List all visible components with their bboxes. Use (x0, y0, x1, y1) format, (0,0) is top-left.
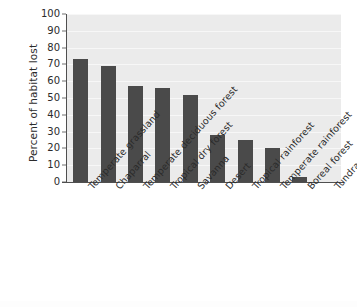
x-tick-label: Tropical dry forest (168, 184, 176, 191)
x-axis-tick-labels: Temperate grasslandChaparralTemperate de… (67, 184, 341, 304)
y-tick-label: 60 (36, 76, 60, 86)
y-tick-label: 90 (36, 26, 60, 36)
y-tick-label: 50 (36, 93, 60, 103)
y-tick-label: 20 (36, 143, 60, 153)
y-tick-label: 0 (36, 177, 60, 187)
x-tick-label: Temperate deciduous forest (141, 184, 149, 191)
page-edge (0, 301, 357, 307)
y-tick-label: 10 (36, 160, 60, 170)
y-tick-label: 40 (36, 110, 60, 120)
bar (73, 59, 88, 182)
x-tick-label: Tundra (332, 184, 340, 191)
bar-chart-figure: Percent of habitat lost 1009080706050403… (0, 0, 357, 307)
x-tick-label: Temperate grassland (86, 184, 94, 191)
y-axis-tick-labels: 1009080706050403020100 (36, 14, 60, 182)
x-tick-label: Savanna (195, 184, 203, 191)
y-axis-line (66, 14, 67, 183)
x-tick-label: Tropical rainforest (250, 184, 258, 191)
x-tick-label: Desert (223, 184, 231, 191)
x-tick-label: Temperate rainforest (278, 184, 286, 191)
x-tick-label: Chaparral (113, 184, 121, 191)
x-tick-label: Boreal forest (305, 184, 313, 191)
y-tick-label: 30 (36, 127, 60, 137)
y-tick-label: 80 (36, 43, 60, 53)
y-tick-label: 70 (36, 59, 60, 69)
y-tick-label: 100 (36, 9, 60, 19)
